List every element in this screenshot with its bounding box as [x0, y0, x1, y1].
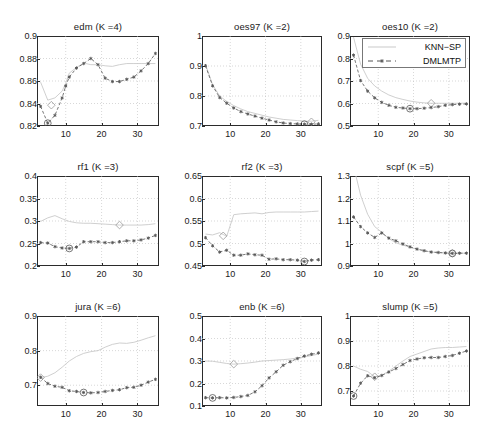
series-dmlmtp-enb	[204, 351, 320, 401]
optimum-circle-marker	[350, 393, 357, 400]
y-tick-label: 0.7	[310, 76, 353, 86]
y-tick-label: 0.8	[0, 346, 40, 356]
y-tick-label: 0.3	[162, 356, 205, 366]
x-tick-mark	[102, 263, 103, 266]
legend-label: KNN−SP	[425, 42, 461, 52]
y-tick-label: 0.7	[310, 386, 353, 396]
x-tick-mark	[230, 403, 231, 406]
gridlines-slump	[350, 316, 470, 406]
y-tick-mark	[202, 384, 205, 385]
x-tick-label: 30	[444, 269, 454, 279]
y-tick-mark	[202, 199, 205, 200]
x-tick-label: 30	[296, 269, 306, 279]
legend-label: DMLMTP	[423, 56, 461, 66]
x-tick-mark	[301, 403, 302, 406]
y-tick-mark	[202, 316, 205, 317]
y-tick-mark	[37, 316, 40, 317]
x-tick-mark	[449, 403, 450, 406]
series-knn-sp-jura	[37, 336, 155, 382]
y-tick-mark	[37, 126, 40, 127]
y-tick-mark	[202, 126, 205, 127]
gridlines-scpf	[350, 176, 470, 266]
optimum-circle-marker	[44, 120, 51, 126]
y-tick-mark	[350, 36, 353, 37]
subplot-title-slump: slump (K =5)	[350, 301, 470, 312]
y-tick-label: 0.8	[310, 54, 353, 64]
y-tick-label: 0.86	[0, 76, 40, 86]
x-tick-label: 20	[97, 409, 107, 419]
series-dmlmtp-scpf	[352, 215, 468, 257]
y-tick-mark	[202, 66, 205, 67]
y-tick-mark	[202, 176, 205, 177]
x-tick-mark	[137, 263, 138, 266]
x-tick-label: 30	[444, 129, 454, 139]
y-tick-mark	[350, 126, 353, 127]
x-tick-label: 10	[225, 129, 235, 139]
plot-area-enb	[202, 316, 322, 406]
y-tick-label: 0.4	[0, 171, 40, 181]
legend-item-dmlmtp[interactable]: DMLMTP	[363, 54, 465, 68]
subplot-title-jura: jura (K =6)	[37, 301, 159, 312]
subplot-title-rf2: rf2 (K =3)	[202, 161, 322, 172]
series-knn-sp-scpf	[354, 176, 467, 257]
y-tick-label: 1	[310, 311, 353, 321]
y-tick-mark	[350, 391, 353, 392]
y-tick-mark	[350, 366, 353, 367]
gridlines-enb	[202, 316, 322, 406]
y-tick-mark	[350, 81, 353, 82]
y-tick-mark	[37, 36, 40, 37]
y-tick-mark	[202, 36, 205, 37]
x-tick-mark	[301, 263, 302, 266]
y-tick-mark	[202, 221, 205, 222]
y-tick-mark	[37, 351, 40, 352]
optimum-diamond-marker	[230, 360, 238, 368]
plot-area-rf2	[202, 176, 322, 266]
optimum-diamond-marker	[371, 373, 379, 381]
y-tick-label: 0.9	[310, 31, 353, 41]
legend-item-knn-sp[interactable]: KNN−SP	[363, 40, 465, 54]
optimum-circle-marker	[301, 258, 308, 265]
plot-canvas-slump	[350, 316, 470, 406]
x-tick-label: 20	[261, 409, 271, 419]
y-tick-mark	[202, 406, 205, 407]
y-tick-mark	[37, 81, 40, 82]
gridlines-rf2	[202, 176, 322, 266]
x-tick-label: 30	[444, 409, 454, 419]
x-tick-label: 10	[61, 129, 71, 139]
x-tick-mark	[266, 403, 267, 406]
x-tick-mark	[414, 123, 415, 126]
x-tick-label: 20	[261, 129, 271, 139]
plot-area-edm	[37, 36, 159, 126]
series-knn-sp-oes97	[206, 65, 319, 126]
series-dmlmtp-edm	[39, 52, 157, 126]
y-tick-label: 0.4	[162, 334, 205, 344]
x-tick-mark	[66, 263, 67, 266]
x-tick-label: 20	[409, 409, 419, 419]
series-dmlmtp-oes97	[204, 64, 320, 126]
y-tick-mark	[350, 59, 353, 60]
x-tick-mark	[230, 123, 231, 126]
x-tick-mark	[102, 123, 103, 126]
x-tick-mark	[449, 263, 450, 266]
y-tick-label: 0.7	[0, 380, 40, 390]
chart-legend: KNN−SPDMLMTP	[362, 38, 466, 68]
series-knn-sp-enb	[206, 354, 319, 368]
y-tick-mark	[350, 199, 353, 200]
y-tick-label: 0.9	[0, 31, 40, 41]
x-tick-label: 10	[373, 409, 383, 419]
y-tick-label: 0.3	[0, 216, 40, 226]
y-tick-label: 0.9	[162, 61, 205, 71]
x-tick-mark	[414, 403, 415, 406]
x-tick-label: 30	[296, 129, 306, 139]
y-tick-label: 0.9	[0, 311, 40, 321]
y-tick-label: 1.2	[310, 194, 353, 204]
x-tick-mark	[266, 123, 267, 126]
y-tick-label: 0.8	[310, 361, 353, 371]
optimum-diamond-marker	[427, 99, 435, 107]
figure-canvas: edm (K =4)0.820.840.860.880.9102030oes97…	[0, 0, 481, 427]
series-dmlmtp-rf1	[39, 234, 157, 252]
subplot-title-edm: edm (K =4)	[37, 21, 159, 32]
y-tick-label: 0.9	[310, 336, 353, 346]
y-tick-label: 1.1	[310, 216, 353, 226]
y-tick-mark	[37, 266, 40, 267]
